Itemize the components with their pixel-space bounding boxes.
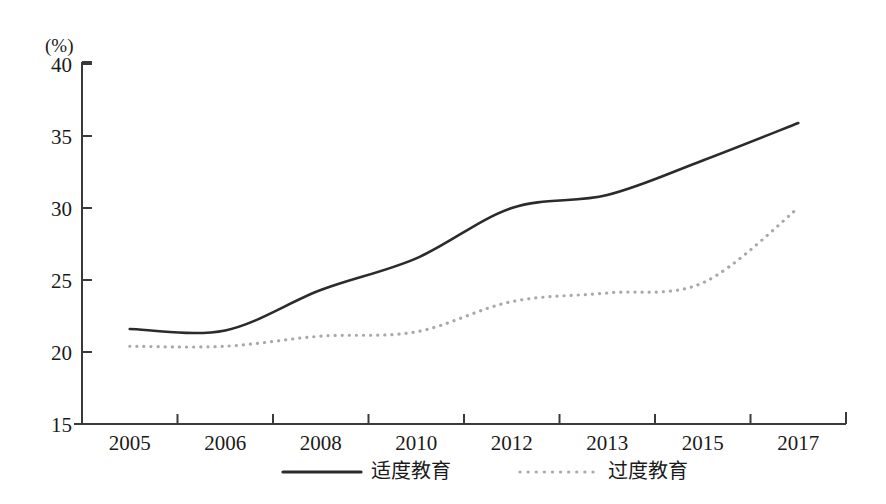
x-tick-label-2010: 2010 xyxy=(395,431,437,455)
y-tick-label-20: 20 xyxy=(51,341,72,365)
line-chart: (%) 40 35 30 25 20 15 200520 xyxy=(0,0,886,504)
chart-background xyxy=(0,0,886,504)
x-tick-label-2005: 2005 xyxy=(109,431,151,455)
x-tick-label-2015: 2015 xyxy=(682,431,724,455)
x-tick-label-2012: 2012 xyxy=(491,431,533,455)
y-tick-label-35: 35 xyxy=(51,125,72,149)
x-tick-label-2017: 2017 xyxy=(777,431,819,455)
x-tick-label-2013: 2013 xyxy=(586,431,628,455)
y-tick-label-25: 25 xyxy=(51,269,72,293)
x-tick-label-2006: 2006 xyxy=(204,431,246,455)
legend-label-guodu-jiaoyu: 过度教育 xyxy=(608,460,688,482)
legend-label-shidu-jiaoyu: 适度教育 xyxy=(371,460,451,482)
y-tick-label-40: 40 xyxy=(51,53,72,77)
y-tick-label-15: 15 xyxy=(51,413,72,437)
y-tick-label-30: 30 xyxy=(51,197,72,221)
chart-container: (%) 40 35 30 25 20 15 200520 xyxy=(0,0,886,504)
x-tick-label-2008: 2008 xyxy=(300,431,342,455)
